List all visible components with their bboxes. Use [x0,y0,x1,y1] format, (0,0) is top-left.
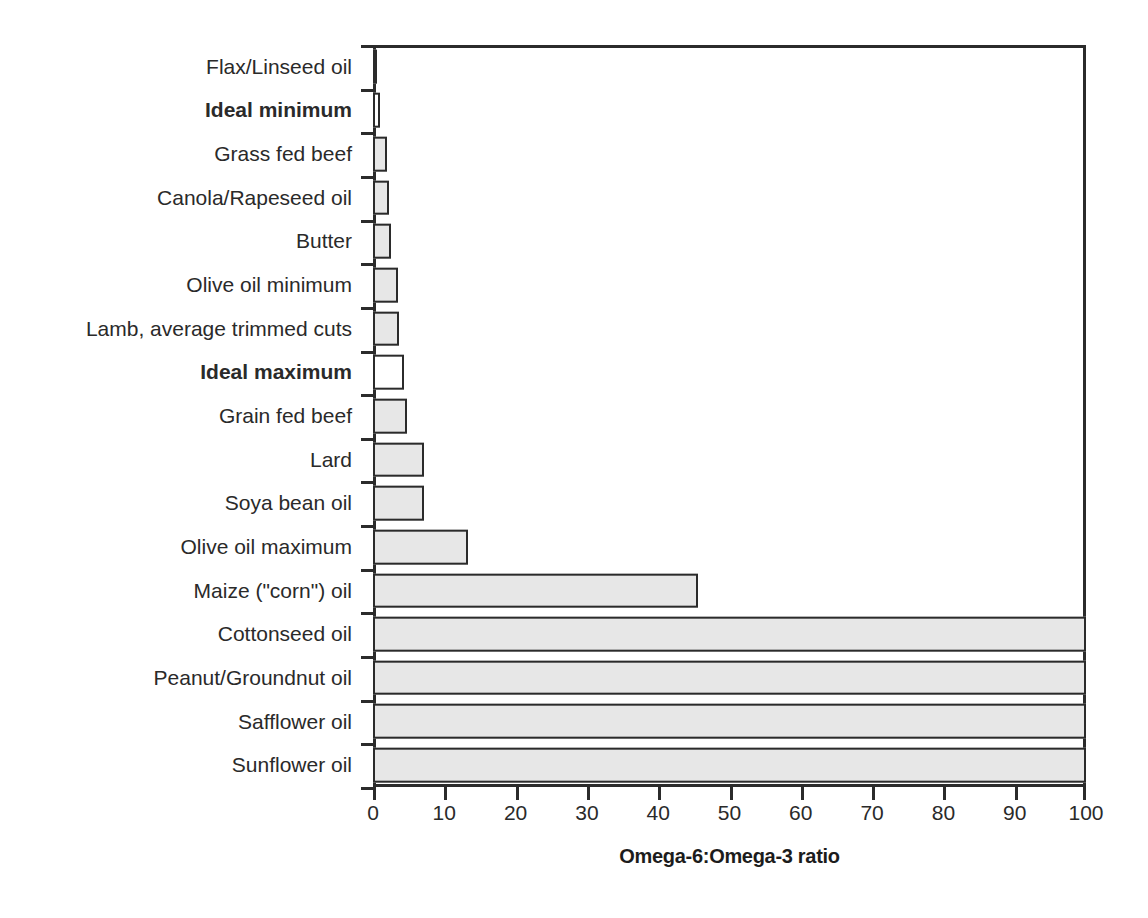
x-axis-tick-label-10: 100 [1068,800,1103,825]
y-axis-label-13: Cottonseed oil [0,622,362,646]
x-axis-tick-label-9: 90 [1003,800,1026,825]
x-axis-tick [730,787,733,800]
bar-butter [373,224,391,259]
bar-sunflower-oil [373,748,1086,783]
bar-flax-linseed-oil [373,49,377,84]
bar-soya-bean-oil [373,486,424,521]
x-axis-tick [658,787,661,800]
bar-row [373,525,1086,569]
omega-ratio-bar-chart: Flax/Linseed oilIdeal minimumGrass fed b… [0,0,1148,918]
bar-ideal-maximum [373,355,404,390]
y-axis-tick [361,132,375,135]
bar-ideal-minimum [373,93,380,128]
bar-row [373,700,1086,744]
y-axis-tick [361,656,375,659]
y-axis-label-12: Maize ("corn") oil [0,579,362,603]
bar-row [373,569,1086,613]
bar-grass-fed-beef [373,137,387,172]
y-axis-tick [361,481,375,484]
y-axis-label-16: Sunflower oil [0,753,362,777]
y-axis-tick [361,263,375,266]
y-axis-tick [361,220,375,223]
y-axis-tick [361,89,375,92]
bar-row [373,743,1086,787]
bar-row [373,220,1086,264]
y-axis-tick [361,394,375,397]
bar-grain-fed-beef [373,399,407,434]
x-axis-tick-label-2: 20 [504,800,527,825]
y-axis-label-9: Lard [0,448,362,472]
bar-rows-container [373,45,1086,787]
x-axis-tick [801,787,804,800]
x-axis-tick [587,787,590,800]
y-axis-label-5: Olive oil minimum [0,273,362,297]
y-axis-category-labels: Flax/Linseed oilIdeal minimumGrass fed b… [0,45,362,787]
bar-row [373,176,1086,220]
y-axis-label-6: Lamb, average trimmed cuts [0,317,362,341]
bar-row [373,132,1086,176]
bar-cottonseed-oil [373,617,1086,652]
y-axis-label-10: Soya bean oil [0,491,362,515]
y-axis-tick [361,45,375,48]
y-axis-tick [361,612,375,615]
x-axis-tick [444,787,447,800]
x-axis-ticks [373,787,1086,801]
x-axis-title: Omega-6:Omega-3 ratio [373,845,1086,868]
x-axis-tick-label-3: 30 [575,800,598,825]
bar-olive-oil-minimum [373,268,398,303]
y-axis-tick [361,438,375,441]
bar-row [373,481,1086,525]
y-axis-tick [361,700,375,703]
bar-peanut-groundnut-oil [373,660,1086,695]
bar-maize-corn-oil [373,573,698,608]
bar-lamb-average-trimmed-cuts [373,311,399,346]
y-axis-tick [361,525,375,528]
y-axis-label-3: Canola/Rapeseed oil [0,186,362,210]
x-axis-tick-label-1: 10 [433,800,456,825]
bar-row [373,350,1086,394]
x-axis-tick-label-5: 50 [718,800,741,825]
bar-row [373,438,1086,482]
bar-row [373,394,1086,438]
y-axis-label-8: Grain fed beef [0,404,362,428]
y-axis-label-0: Flax/Linseed oil [0,55,362,79]
bar-row [373,656,1086,700]
y-axis-label-2: Grass fed beef [0,142,362,166]
bar-row [373,45,1086,89]
y-axis-tick [361,351,375,354]
x-axis-tick [943,787,946,800]
x-axis-tick [516,787,519,800]
x-axis-tick-label-6: 60 [789,800,812,825]
y-axis-label-15: Safflower oil [0,710,362,734]
x-axis-tick-label-4: 40 [647,800,670,825]
x-axis-tick [872,787,875,800]
x-axis-tick-label-0: 0 [367,800,379,825]
bar-lard [373,442,424,477]
bar-row [373,263,1086,307]
x-axis-tick [1015,787,1018,800]
x-axis-tick-labels: 0102030405060708090100 [373,800,1086,830]
bar-safflower-oil [373,704,1086,739]
y-axis-label-11: Olive oil maximum [0,535,362,559]
y-axis-tick [361,176,375,179]
y-axis-tick [361,787,375,790]
x-axis-tick-label-8: 80 [932,800,955,825]
y-axis-label-7: Ideal maximum [0,360,362,384]
bar-olive-oil-maximum [373,530,468,565]
y-axis-label-4: Butter [0,229,362,253]
bar-canola-rapeseed-oil [373,180,389,215]
bar-row [373,307,1086,351]
x-axis-tick [1083,787,1086,800]
y-axis-tick [361,307,375,310]
y-axis-label-14: Peanut/Groundnut oil [0,666,362,690]
y-axis-label-1: Ideal minimum [0,98,362,122]
bar-row [373,612,1086,656]
x-axis-tick-label-7: 70 [860,800,883,825]
y-axis-tick [361,743,375,746]
bar-row [373,89,1086,133]
y-axis-tick [361,569,375,572]
